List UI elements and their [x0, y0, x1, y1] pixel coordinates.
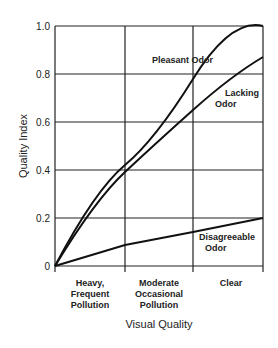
x-axis-label: Visual Quality	[125, 318, 193, 330]
svg-text:0.2: 0.2	[36, 213, 50, 224]
svg-text:Clear: Clear	[220, 278, 243, 288]
chart: 1.0 0.8 0.6 0.4 0.2 0 Quality Index Plea…	[0, 0, 278, 348]
y-axis-label: Quality Index	[17, 113, 29, 178]
svg-text:Odor: Odor	[205, 243, 227, 253]
svg-text:Frequent: Frequent	[71, 289, 110, 299]
y-tick-labels: 1.0 0.8 0.6 0.4 0.2 0	[36, 21, 50, 272]
svg-text:Occasional: Occasional	[135, 289, 183, 299]
svg-text:0.4: 0.4	[36, 165, 50, 176]
svg-text:Odor: Odor	[215, 99, 237, 109]
svg-text:Pollution: Pollution	[71, 300, 110, 310]
svg-text:0.8: 0.8	[36, 69, 50, 80]
svg-text:0.6: 0.6	[36, 117, 50, 128]
svg-text:Lacking: Lacking	[225, 88, 259, 98]
svg-text:Heavy,: Heavy,	[76, 278, 104, 288]
disagreeable-odor-line	[55, 218, 263, 266]
x-category-labels: Heavy, Frequent Pollution Moderate Occas…	[71, 278, 243, 310]
svg-text:Moderate: Moderate	[139, 278, 179, 288]
series-labels: Pleasant Odor Lacking Odor Disagreeable …	[152, 55, 259, 253]
svg-text:Disagreeable: Disagreeable	[199, 232, 255, 242]
svg-text:1.0: 1.0	[36, 21, 50, 32]
svg-text:Pollution: Pollution	[140, 300, 179, 310]
svg-text:0: 0	[44, 261, 50, 272]
svg-text:Pleasant Odor: Pleasant Odor	[152, 55, 214, 65]
